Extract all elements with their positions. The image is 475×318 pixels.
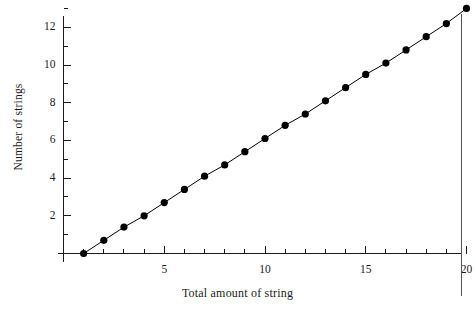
chart-canvas [0,0,475,318]
data-point [80,250,87,257]
data-point [100,237,107,244]
x-tick-label: 10 [259,264,271,276]
x-tick-label: 5 [161,264,167,276]
data-point [181,186,188,193]
data-point [382,60,389,67]
tick-marks [64,8,467,253]
data-point [161,199,168,206]
y-tick-label: 4 [32,172,56,184]
data-point [402,46,409,53]
y-tick-label: 6 [32,135,56,147]
y-tick-label: 8 [32,97,56,109]
y-tick-label: 12 [32,22,56,34]
data-point [443,20,450,27]
data-point [463,5,470,12]
data-point [423,33,430,40]
x-tick-label: 20 [461,264,473,276]
x-tick-label: 15 [360,264,372,276]
data-series [80,5,470,257]
data-point [120,224,127,231]
y-axis-label-container: Number of strings [10,0,26,254]
data-point [302,110,309,117]
page-edge-artifact [461,14,462,296]
data-point [201,173,208,180]
data-point [362,71,369,78]
x-axis-label: Total amount of string [0,286,475,301]
y-axis-label: Number of strings [12,83,24,170]
data-point [261,135,268,142]
data-point [342,84,349,91]
data-point [322,97,329,104]
data-point [282,122,289,129]
data-point [141,212,148,219]
data-point [221,161,228,168]
data-point [241,148,248,155]
chart-figure: 510152024681012 Number of strings Total … [0,0,475,318]
y-tick-label: 2 [32,210,56,222]
y-tick-label: 10 [32,59,56,71]
